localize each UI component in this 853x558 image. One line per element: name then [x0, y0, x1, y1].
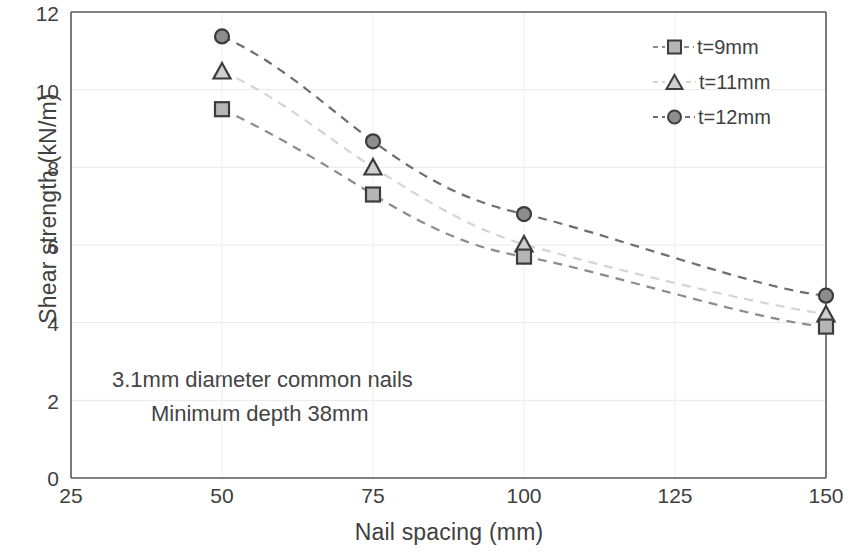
legend-samples — [653, 41, 696, 124]
legend-item-t11mm: t=11mm — [699, 71, 770, 94]
chart-figure: Shear strength (kN/m) Nail spacing (mm) … — [0, 0, 853, 558]
legend-item-t9mm: t=9mm — [697, 36, 759, 59]
gridlines — [71, 90, 826, 401]
legend-item-t12mm: t=12mm — [698, 106, 771, 129]
